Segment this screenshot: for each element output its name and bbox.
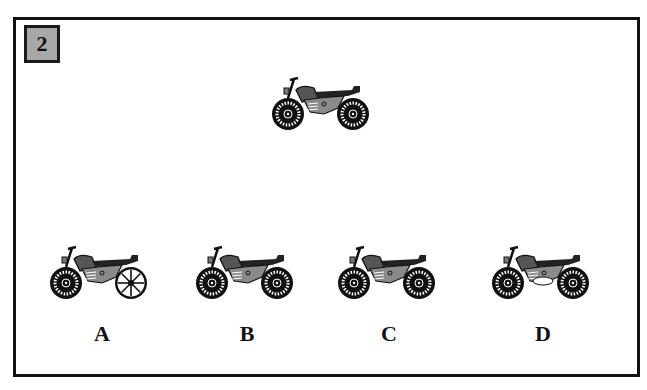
option-b-label[interactable]: B (227, 321, 267, 347)
option-a-label[interactable]: A (82, 321, 122, 347)
option-c-label[interactable]: C (369, 321, 409, 347)
question-frame: 2 A B C (13, 17, 640, 377)
option-d-label[interactable]: D (523, 321, 563, 347)
option-a-motorcycle-icon[interactable] (46, 237, 152, 303)
option-c-motorcycle-icon[interactable] (334, 237, 440, 303)
option-b-motorcycle-icon[interactable] (192, 237, 298, 303)
reference-motorcycle-icon (268, 68, 374, 134)
question-number-badge: 2 (24, 25, 60, 63)
option-d-motorcycle-icon[interactable] (488, 237, 594, 303)
